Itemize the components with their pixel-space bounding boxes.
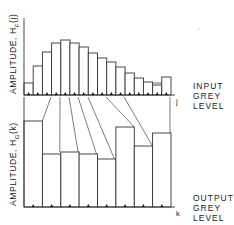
ylabel-subscript: F xyxy=(14,23,20,27)
output-grey-level-label: OUTPUT GREY LEVEL xyxy=(193,193,234,223)
input-bar xyxy=(33,66,42,95)
mapping-line xyxy=(42,97,51,121)
input-bar xyxy=(107,62,116,95)
side-label-line: LEVEL xyxy=(193,101,224,111)
ylabel-arg: (j) xyxy=(8,14,18,23)
input-bar xyxy=(98,58,107,95)
stray-mark xyxy=(197,28,200,31)
input-axis-variable: j xyxy=(176,97,178,106)
output-bar xyxy=(61,152,79,207)
input-bar xyxy=(70,43,79,95)
input-bar xyxy=(125,73,134,95)
output-bar xyxy=(116,127,134,207)
input-grey-level-label: INPUT GREY LEVEL xyxy=(193,81,224,111)
ylabel-text: AMPLITUDE, H xyxy=(8,27,18,94)
output-histogram-bars xyxy=(24,121,171,207)
side-label-line: GREY xyxy=(193,203,234,213)
mapping-line xyxy=(78,97,97,154)
input-bar xyxy=(52,43,61,95)
output-bar xyxy=(24,121,42,207)
input-bar xyxy=(61,40,70,95)
output-bar xyxy=(42,154,60,207)
mapping-line xyxy=(88,97,115,160)
ylabel-text: AMPLITUDE, H xyxy=(8,139,18,206)
mapping-line xyxy=(106,97,134,127)
input-bar xyxy=(88,53,97,95)
output-bar xyxy=(153,133,171,207)
output-bar xyxy=(79,154,97,207)
ylabel-subscript: G xyxy=(14,134,20,139)
side-label-line: LEVEL xyxy=(193,213,234,223)
input-bar xyxy=(42,52,51,95)
input-amplitude-axis-label: AMPLITUDE, HF(j) xyxy=(8,14,20,94)
ylabel-arg: (k) xyxy=(8,122,18,134)
side-label-line: GREY xyxy=(193,91,224,101)
input-bar xyxy=(79,47,88,95)
side-label-line: INPUT xyxy=(193,81,224,91)
input-bar xyxy=(116,67,125,95)
output-bar xyxy=(134,146,152,207)
output-amplitude-axis-label: AMPLITUDE, HG(k) xyxy=(8,122,20,206)
side-label-line: OUTPUT xyxy=(193,193,234,203)
histogram-equalization-diagram xyxy=(0,0,234,225)
output-axis-variable: k xyxy=(176,209,180,218)
input-histogram-bars xyxy=(24,40,171,95)
mapping-line xyxy=(69,97,78,152)
output-bar xyxy=(98,159,116,207)
